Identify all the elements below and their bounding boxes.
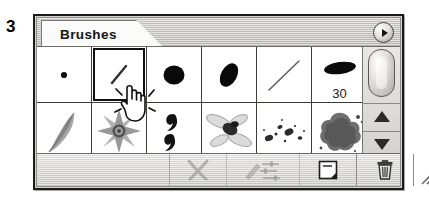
- brush-cell-hard-round-large[interactable]: [147, 47, 202, 103]
- brush-cell-soft-diagonal-stroke[interactable]: [92, 47, 147, 103]
- brush-list-scrollbar[interactable]: [362, 47, 400, 159]
- flat-ellipse-brush-icon: [314, 53, 366, 87]
- angled-ellipse-brush-icon: [206, 52, 252, 98]
- thin-line-brush-icon: [258, 52, 310, 98]
- palette-bottom-toolbar: [37, 153, 400, 186]
- brush-with-sliders-icon: [243, 158, 283, 182]
- scrollbar-thumb[interactable]: [368, 49, 395, 97]
- splatter-blob-brush-icon: [313, 107, 367, 155]
- scroll-down-arrow-icon: [374, 139, 390, 150]
- palette-inner-frame: Brushes: [36, 17, 401, 187]
- tab-brushes-label: Brushes: [60, 27, 117, 42]
- brush-options-button[interactable]: [227, 154, 300, 186]
- brush-grid: 30: [37, 47, 367, 159]
- brushes-palette: Brushes: [33, 14, 404, 190]
- starburst-brush-icon: [94, 106, 144, 156]
- scroll-up-button[interactable]: [363, 103, 400, 129]
- delete-brush-button[interactable]: [357, 154, 414, 186]
- brush-cell-dragonfly[interactable]: [202, 103, 257, 159]
- tab-brushes[interactable]: Brushes: [41, 20, 163, 47]
- speckle-scatter-brush-icon: [258, 108, 310, 154]
- feather-brush-icon: [41, 106, 87, 156]
- toolbar-empty-area: [37, 154, 170, 186]
- small-dot-brush-icon: [41, 52, 87, 98]
- new-page-icon: [317, 159, 339, 181]
- scroll-up-arrow-icon: [374, 111, 390, 122]
- brush-cell-thin-diagonal-line[interactable]: [257, 47, 312, 103]
- brush-cell-speckles[interactable]: [257, 103, 312, 159]
- clear-brush-button[interactable]: [170, 154, 227, 186]
- figure-number: 3: [6, 18, 15, 35]
- brush-cell-feather[interactable]: [37, 103, 92, 159]
- palette-menu-triangle-icon: [382, 29, 388, 37]
- dragonfly-brush-icon: [202, 107, 256, 155]
- resize-grip-icon: [414, 162, 429, 186]
- brush-cell-splatter[interactable]: [312, 103, 367, 159]
- brush-cell-starburst[interactable]: [92, 103, 147, 159]
- brush-cell-comma-marks[interactable]: [147, 103, 202, 159]
- diagonal-stroke-brush-icon: [96, 52, 142, 98]
- x-cross-icon: [185, 158, 211, 182]
- palette-menu-button[interactable]: [373, 22, 394, 43]
- round-blob-brush-icon: [151, 52, 197, 98]
- trash-can-icon: [374, 158, 396, 182]
- palette-tab-bar: Brushes: [37, 18, 400, 47]
- brush-size-label: 30: [312, 86, 367, 101]
- new-brush-button[interactable]: [300, 154, 357, 186]
- comma-marks-brush-icon: [154, 106, 194, 156]
- palette-resize-grip[interactable]: [414, 154, 429, 186]
- brush-cell-oval-angled[interactable]: [202, 47, 257, 103]
- brush-grid-area: 30: [37, 47, 368, 159]
- brush-cell-hard-round-1[interactable]: [37, 47, 92, 103]
- brush-cell-flat-oval-30[interactable]: 30: [312, 47, 367, 103]
